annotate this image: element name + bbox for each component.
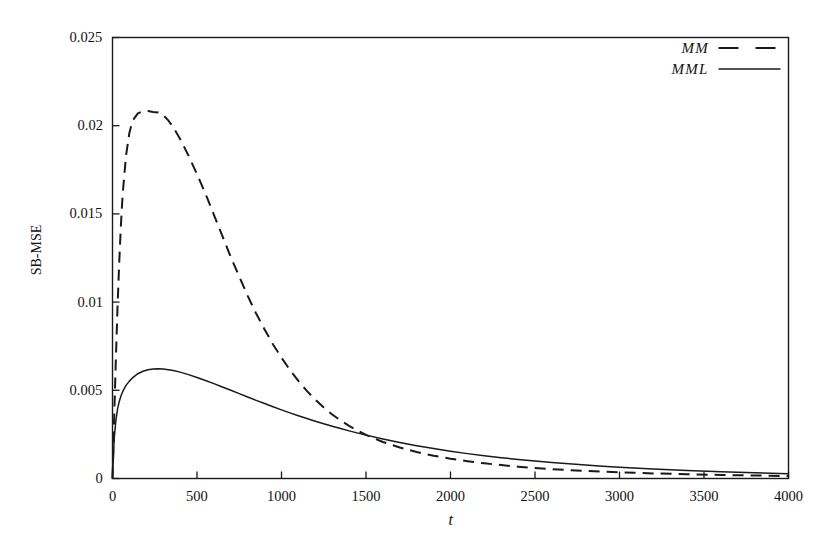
legend-label-mm: MM xyxy=(682,40,709,57)
x-tick-label: 1000 xyxy=(267,488,296,505)
chart-figure: 0500100015002000250030003500400000.0050.… xyxy=(0,0,819,550)
y-tick-label: 0.015 xyxy=(70,205,103,222)
x-tick-label: 0 xyxy=(109,488,116,505)
x-tick-label: 4000 xyxy=(774,488,803,505)
x-tick-label: 1500 xyxy=(352,488,381,505)
y-tick-label: 0 xyxy=(96,470,103,487)
plot-frame xyxy=(113,38,789,479)
y-tick-label: 0.025 xyxy=(70,29,103,46)
x-axis-label: t xyxy=(449,511,453,529)
x-tick-label: 2000 xyxy=(436,488,465,505)
x-tick-label: 3000 xyxy=(605,488,634,505)
legend-label-mml: MML xyxy=(672,61,709,78)
x-tick-label: 3500 xyxy=(690,488,719,505)
plot-canvas xyxy=(0,0,819,550)
x-tick-label: 2500 xyxy=(521,488,550,505)
y-tick-label: 0.01 xyxy=(78,294,103,311)
x-tick-label: 500 xyxy=(186,488,208,505)
y-tick-label: 0.005 xyxy=(70,382,103,399)
y-axis-label: SB-MSE xyxy=(29,225,45,276)
y-tick-label: 0.02 xyxy=(78,117,103,134)
